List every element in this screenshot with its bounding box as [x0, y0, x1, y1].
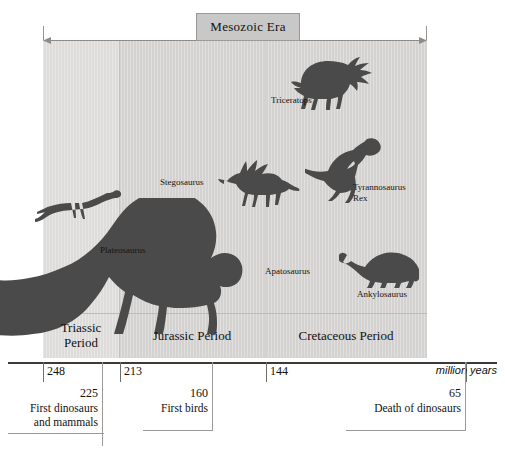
- annotation-value-225: 225: [8, 386, 103, 401]
- period-label-jurassic: Jurassic Period: [119, 316, 265, 356]
- axis-unit-label: million years: [436, 364, 497, 376]
- triceratops-label: Triceratops: [271, 95, 312, 106]
- annotation-value-65: 65: [290, 386, 466, 401]
- annotation-text-first-dinosaurs: First dinosaurs and mammals: [8, 401, 103, 430]
- axis-tick-213: [120, 362, 121, 382]
- period-label-cretaceous: Cretaceous Period: [265, 316, 427, 356]
- annotation-text-first-birds: First birds: [125, 401, 213, 415]
- timeline-chart: Mesozoic Era Plateosaurus: [0, 0, 505, 464]
- annotation-leader-line-160: [212, 362, 213, 430]
- annotation-leader-line-65: [465, 362, 466, 430]
- axis-label-144: 144: [270, 364, 288, 379]
- plateosaurus-label: Plateosaurus: [100, 245, 146, 256]
- tyrannosaurus-rex-label: Tyrannosaurus Rex: [353, 182, 406, 204]
- annotation-underline-225: [8, 433, 104, 434]
- axis-label-248: 248: [47, 364, 65, 379]
- timeline-axis: [8, 362, 497, 364]
- annotation-value-160: 160: [125, 386, 213, 401]
- era-title-box: Mesozoic Era: [196, 13, 300, 41]
- apatosaurus-label: Apatosaurus: [265, 266, 310, 277]
- stegosaurus-label: Stegosaurus: [160, 177, 204, 188]
- annotation-first-birds: 160 First birds: [125, 386, 213, 415]
- annotation-text-death-of-dinosaurs: Death of dinosaurs: [290, 401, 466, 415]
- axis-tick-144: [266, 362, 267, 382]
- era-title: Mesozoic Era: [210, 19, 285, 35]
- axis-tick-248: [43, 362, 44, 382]
- axis-label-213: 213: [124, 364, 142, 379]
- annotation-first-dinosaurs: 225 First dinosaurs and mammals: [8, 386, 103, 430]
- ankylosaurus-label: Ankylosaurus: [357, 289, 407, 300]
- period-label-triassic: Triassic Period: [43, 316, 119, 356]
- ankylosaurus-silhouette: [339, 240, 419, 288]
- chart-area: Plateosaurus Stegosaurus Triceratops Tyr…: [43, 40, 427, 358]
- annotation-underline-160: [143, 430, 213, 431]
- annotation-underline-65: [346, 430, 466, 431]
- annotation-death-of-dinosaurs: 65 Death of dinosaurs: [290, 386, 466, 415]
